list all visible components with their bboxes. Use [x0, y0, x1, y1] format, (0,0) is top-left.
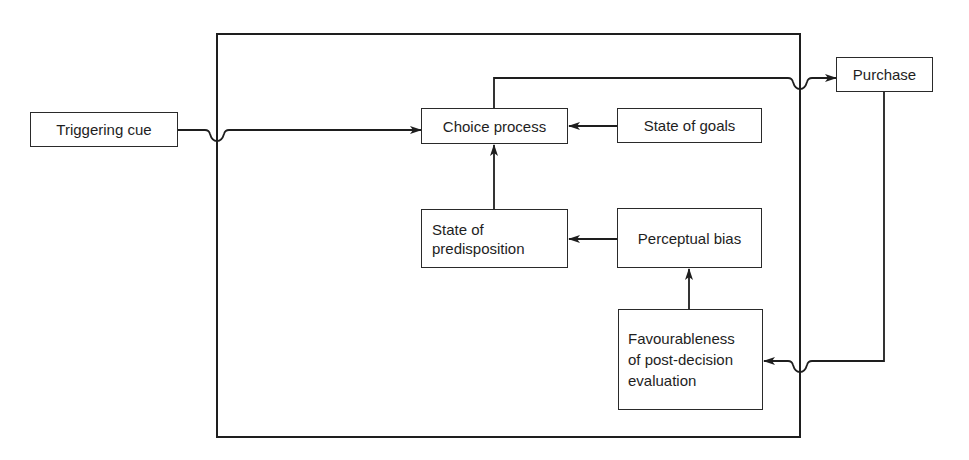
node-label: State of predisposition	[432, 220, 525, 258]
node-label: Perceptual bias	[638, 229, 741, 248]
node-choice-process: Choice process	[421, 108, 568, 144]
node-label: Triggering cue	[56, 120, 151, 139]
edge-choice-to-purchase	[494, 78, 836, 108]
node-label: Choice process	[443, 117, 546, 136]
edge-trigger-to-choice	[178, 130, 421, 141]
node-favourableness-evaluation: Favourableness of post-decision evaluati…	[618, 309, 763, 410]
node-triggering-cue: Triggering cue	[30, 112, 178, 147]
node-label: State of goals	[644, 116, 736, 135]
node-state-of-predisposition: State of predisposition	[421, 209, 568, 268]
node-label: Purchase	[853, 65, 916, 84]
node-state-of-goals: State of goals	[617, 108, 762, 143]
edge-purchase-to-favourableness	[764, 92, 884, 372]
node-label: Favourableness of post-decision evaluati…	[628, 328, 735, 391]
node-purchase: Purchase	[836, 57, 933, 92]
node-perceptual-bias: Perceptual bias	[617, 208, 762, 268]
